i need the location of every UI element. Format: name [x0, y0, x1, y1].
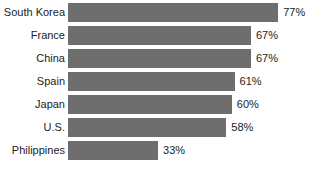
value-bar	[68, 26, 251, 45]
category-label: Philippines	[0, 145, 65, 156]
chart-row: Spain 61%	[0, 72, 318, 91]
bar-track: 67%	[68, 26, 318, 45]
value-label: 67%	[256, 30, 278, 41]
category-label: France	[0, 30, 65, 41]
value-label: 61%	[240, 76, 262, 87]
category-label: U.S.	[0, 122, 65, 133]
chart-row: France 67%	[0, 26, 318, 45]
value-bar	[68, 72, 235, 91]
category-label: South Korea	[0, 7, 65, 18]
chart-row: China 67%	[0, 49, 318, 68]
value-bar	[68, 3, 278, 22]
bar-track: 77%	[68, 3, 318, 22]
value-bar	[68, 95, 232, 114]
value-bar	[68, 49, 251, 68]
value-label: 33%	[163, 145, 185, 156]
value-label: 77%	[283, 7, 305, 18]
value-bar	[68, 118, 226, 137]
chart-row: Philippines 33%	[0, 141, 318, 160]
horizontal-bar-chart: South Korea 77% France 67% China 67% Spa…	[0, 0, 318, 169]
category-label: Japan	[0, 99, 65, 110]
value-label: 58%	[231, 122, 253, 133]
chart-row: U.S. 58%	[0, 118, 318, 137]
bar-track: 60%	[68, 95, 318, 114]
bar-track: 58%	[68, 118, 318, 137]
bar-track: 61%	[68, 72, 318, 91]
chart-row: Japan 60%	[0, 95, 318, 114]
category-label: China	[0, 53, 65, 64]
value-label: 60%	[237, 99, 259, 110]
value-label: 67%	[256, 53, 278, 64]
chart-row: South Korea 77%	[0, 3, 318, 22]
category-label: Spain	[0, 76, 65, 87]
value-bar	[68, 141, 158, 160]
bar-track: 33%	[68, 141, 318, 160]
bar-track: 67%	[68, 49, 318, 68]
